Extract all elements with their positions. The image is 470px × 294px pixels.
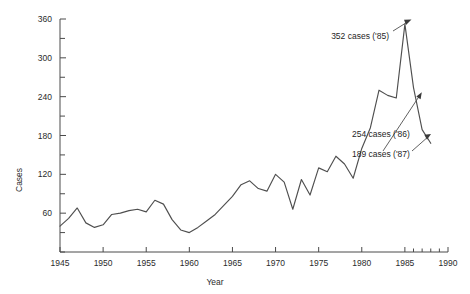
x-tick-label: 1955 — [137, 258, 156, 268]
annotation-arrowhead-1986 — [416, 92, 422, 99]
annotation-1985: 352 cases ('85) — [331, 20, 411, 42]
x-axis-minor-ticks — [414, 249, 440, 253]
y-tick-label: 60 — [43, 208, 53, 218]
annotation-1986: 254 cases ('86) — [352, 92, 422, 151]
annotation-label-1986: 254 cases ('86) — [352, 129, 410, 139]
x-tick-label: 1990 — [439, 258, 458, 268]
annotation-label-1987: 189 cases ('87) — [352, 149, 410, 159]
y-tick-label: 180 — [38, 131, 52, 141]
y-tick-label: 120 — [38, 169, 52, 179]
x-axis: 1945195019551960196519701975198019851990… — [51, 247, 458, 287]
y-axis-tick-labels: 60120180240300360 — [38, 14, 52, 218]
y-tick-label: 300 — [38, 53, 52, 63]
x-tick-label: 1985 — [395, 258, 414, 268]
line-chart: 60120180240300360 Cases 1945195019551960… — [0, 0, 470, 294]
annotation-label-1985: 352 cases ('85) — [331, 31, 389, 41]
annotation-leader-1986 — [383, 95, 420, 151]
x-tick-label: 1945 — [51, 258, 70, 268]
y-axis: 60120180240300360 Cases — [14, 14, 66, 252]
x-tick-label: 1980 — [352, 258, 371, 268]
y-tick-label: 360 — [38, 14, 52, 24]
x-axis-title: Year — [206, 277, 223, 287]
x-tick-label: 1975 — [309, 258, 328, 268]
x-tick-label: 1970 — [266, 258, 285, 268]
x-axis-ticks — [60, 247, 448, 252]
x-axis-tick-labels: 1945195019551960196519701975198019851990 — [51, 258, 458, 268]
x-tick-label: 1950 — [94, 258, 113, 268]
y-axis-title: Cases — [14, 168, 24, 192]
x-tick-label: 1960 — [180, 258, 199, 268]
y-axis-ticks — [60, 19, 66, 252]
x-tick-label: 1965 — [223, 258, 242, 268]
chart-svg: 60120180240300360 Cases 1945195019551960… — [0, 0, 470, 294]
annotations-group: 352 cases ('85) 254 cases ('86) 189 case… — [331, 20, 431, 160]
y-tick-label: 240 — [38, 92, 52, 102]
